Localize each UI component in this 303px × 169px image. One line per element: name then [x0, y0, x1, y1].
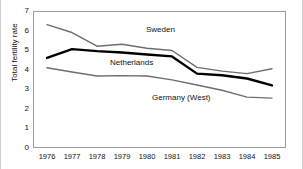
x-tick-1977: 1977: [59, 152, 85, 161]
x-tick-1984: 1984: [234, 152, 260, 161]
x-tick-1982: 1982: [184, 152, 210, 161]
series-label-sweden: Sweden: [146, 25, 175, 34]
x-tick-1979: 1979: [109, 152, 135, 161]
series-label-germany: Germany (West): [152, 93, 211, 102]
x-tick-1983: 1983: [209, 152, 235, 161]
series-label-netherlands: Netherlands: [110, 58, 153, 67]
series-line-netherlands: [47, 49, 272, 85]
x-tick-1980: 1980: [134, 152, 160, 161]
x-axis-tick-labels: 1976197719781979198019811982198319841985: [33, 152, 286, 164]
x-tick-1981: 1981: [159, 152, 185, 161]
x-tick-1978: 1978: [84, 152, 110, 161]
chart-figure: Total fertility rate 01234567 1976197719…: [0, 0, 303, 169]
x-tick-1985: 1985: [259, 152, 285, 161]
x-tick-1976: 1976: [34, 152, 60, 161]
